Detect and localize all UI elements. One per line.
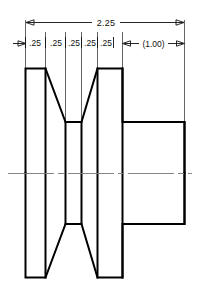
engineering-drawing-canvas: 2.25 .25 .25 .25 .25 .25 (1.00): [0, 0, 199, 288]
segment-dimension-label-3: .25: [84, 38, 96, 48]
pulley-lower-profile: [26, 173, 185, 278]
overall-dimension-group: 2.25: [26, 18, 184, 28]
pulley-section-outline: [26, 69, 185, 278]
segment-dimension-label-1: .25: [50, 38, 62, 48]
pulley-upper-profile: [26, 69, 185, 174]
segment-dimension-label-0: .25: [29, 38, 41, 48]
drawing-svg: 2.25 .25 .25 .25 .25 .25 (1.00): [0, 0, 199, 288]
reference-dimension-label: (1.00): [142, 39, 164, 49]
segment-dimension-label-2: .25: [68, 38, 80, 48]
reference-dimension-group: (1.00): [123, 39, 185, 49]
overall-dimension-label: 2.25: [97, 18, 115, 28]
extension-lines: [26, 20, 185, 126]
segment-dimension-group: .25 .25 .25 .25 .25: [13, 37, 114, 48]
segment-dimension-label-4: .25: [100, 38, 112, 48]
